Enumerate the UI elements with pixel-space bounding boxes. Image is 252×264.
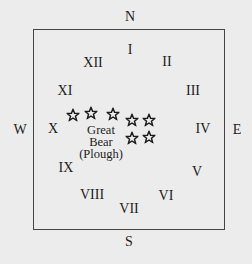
east-label: E [233, 123, 242, 137]
star-icon [126, 114, 139, 127]
caption-line-3: (Plough) [79, 148, 123, 160]
hour-v: V [192, 165, 202, 179]
star-icon [126, 132, 139, 145]
west-label: W [13, 123, 26, 137]
hour-ii: II [162, 55, 171, 69]
star-icon [85, 107, 98, 120]
hour-xi: XI [58, 84, 73, 98]
hour-viii: VIII [80, 188, 104, 202]
star-icon [143, 114, 156, 127]
hour-x: X [48, 122, 58, 136]
hour-i: I [128, 43, 133, 57]
hour-iii: III [186, 84, 200, 98]
north-label: N [125, 10, 135, 24]
star-icon [107, 108, 120, 121]
great-bear-caption: Great Bear (Plough) [79, 124, 123, 160]
south-label: S [125, 235, 133, 249]
hour-ix: IX [59, 161, 74, 175]
hour-iv: IV [196, 122, 211, 136]
hour-vii: VII [119, 202, 138, 216]
hour-xii: XII [83, 56, 102, 70]
star-icon [67, 109, 80, 122]
star-icon [143, 131, 156, 144]
hour-vi: VI [159, 189, 174, 203]
